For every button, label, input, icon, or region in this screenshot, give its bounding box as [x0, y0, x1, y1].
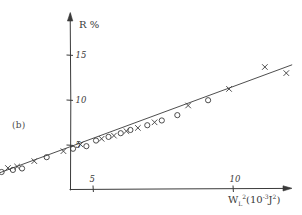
- data-points-layer: [0, 65, 289, 190]
- data-point-cross: [262, 65, 267, 70]
- data-point-cross: [111, 133, 116, 138]
- y-axis-arrow: [67, 13, 72, 22]
- data-point-circle: [93, 138, 98, 143]
- data-point-circle: [145, 123, 150, 128]
- data-point-circle: [84, 144, 89, 149]
- panel-label: (b): [12, 120, 26, 130]
- scatter-plot: 51015510 R % WL2(10-3J2): [0, 0, 302, 215]
- x-axis-units-close: ): [276, 194, 280, 205]
- data-point-cross: [186, 103, 191, 108]
- data-point-circle: [106, 134, 111, 139]
- data-point-circle: [19, 166, 24, 171]
- data-point-cross: [99, 136, 104, 141]
- data-point-cross: [32, 159, 37, 164]
- data-point-circle: [118, 131, 123, 136]
- x-axis-title: WL2(10-3J2): [228, 193, 280, 207]
- data-point-circle: [128, 127, 133, 132]
- x-axis-line: [70, 188, 290, 189]
- data-point-circle: [159, 118, 164, 123]
- x-axis-subscript: L: [238, 200, 242, 207]
- x-tick-label: 5: [90, 174, 95, 184]
- axes-layer: [67, 13, 292, 192]
- y-axis-line: [70, 14, 71, 190]
- x-tick-label: 10: [230, 174, 241, 184]
- data-point-cross: [135, 125, 140, 130]
- figure-panel: (b) 51015510 R % WL2(10-3J2): [0, 0, 302, 215]
- svg-text:WL2(10-3J2): WL2(10-3J2): [228, 193, 280, 207]
- x-axis-arrow: [283, 186, 292, 191]
- data-point-cross: [284, 71, 289, 76]
- y-axis-title: R %: [79, 19, 99, 30]
- y-tick-label: 15: [76, 50, 87, 60]
- x-axis-units-open: (10: [246, 194, 263, 205]
- data-point-cross: [152, 120, 157, 125]
- y-tick-label: 10: [76, 95, 87, 105]
- data-point-circle: [175, 113, 180, 118]
- data-point-circle: [206, 98, 211, 103]
